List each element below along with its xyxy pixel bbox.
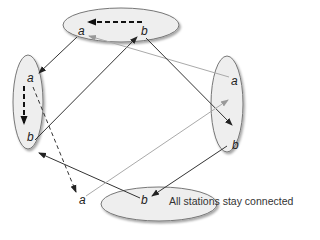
top-b-label: b (141, 24, 148, 38)
bottom-a-label: a (79, 193, 86, 207)
edge-bottom-a-to-right-a (86, 100, 228, 196)
left-b-label: b (27, 130, 34, 144)
right-b-label: b (232, 138, 239, 152)
bottom-b-label: b (141, 193, 148, 207)
left-a-label: a (27, 71, 34, 85)
top-a-label: a (78, 24, 85, 38)
edge-bottom-b-to-left-b (39, 153, 140, 198)
edge-top-a-to-left-a (39, 37, 77, 73)
edge-right-a-to-top-a (89, 36, 229, 77)
edge-right-b-to-bottom-b (152, 146, 227, 196)
diagram-caption: All stations stay connected (169, 195, 293, 207)
edge-left-a-to-bottom-a (33, 87, 76, 192)
edge-left-b-to-top-b (35, 37, 137, 140)
right-a-label: a (231, 74, 238, 88)
